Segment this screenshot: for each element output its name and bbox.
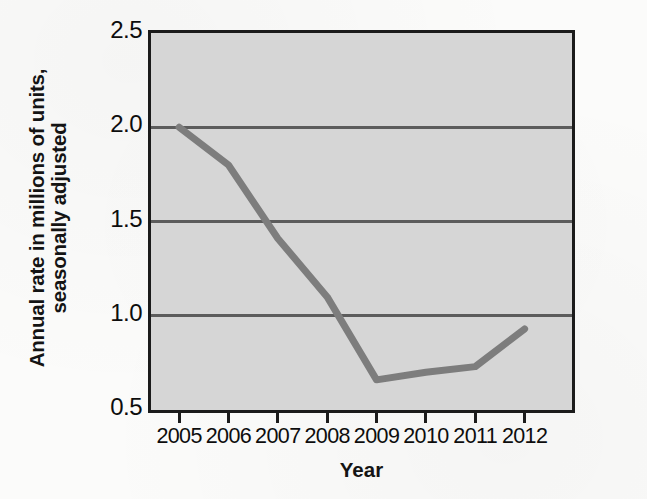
chart-page: Annual rate in millions of units, season… [0,0,647,499]
x-tick-mark-2010 [424,413,427,423]
x-tick-mark-2011 [474,413,477,423]
y-tick-label-1-0: 1.0 [80,299,142,327]
x-tick-mark-2012 [523,413,526,423]
y-axis-title-line-2: seasonally adjusted [47,122,70,313]
x-tick-mark-2008 [326,413,329,423]
y-axis-title-line-1: Annual rate in millions of units, [25,68,48,367]
series-polyline [179,127,524,380]
y-tick-label-2-0: 2.0 [80,110,142,138]
x-tick-mark-2009 [375,413,378,423]
x-tick-mark-2005 [178,413,181,423]
plot-inner [151,33,572,410]
y-axis-title: Annual rate in millions of units, season… [20,15,76,420]
y-axis-tick-labels: 0.51.01.52.02.5 [78,0,142,499]
y-axis-title-text: Annual rate in millions of units, season… [26,68,70,367]
y-tick-label-0-5: 0.5 [80,393,142,421]
x-tick-mark-2007 [276,413,279,423]
plot-area [148,30,575,413]
data-series-line [151,33,572,410]
x-tick-mark-2006 [227,413,230,423]
x-tick-label-2012: 2012 [485,424,565,449]
x-axis-title: Year [148,458,575,482]
y-tick-label-2-5: 2.5 [80,16,142,44]
y-tick-label-1-5: 1.5 [80,205,142,233]
